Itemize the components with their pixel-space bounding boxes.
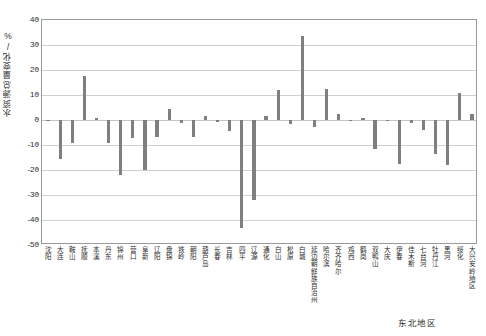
- bar: [470, 114, 473, 120]
- x-tick-label: 大兴安岭地区: [467, 246, 474, 289]
- x-tick-label: 锦州: [116, 246, 123, 260]
- x-tick-label: 辽源: [249, 246, 256, 260]
- bar: [143, 120, 146, 170]
- bar: [373, 120, 376, 149]
- y-tick-mark--10: [36, 144, 39, 145]
- x-tick-label: 盘锦: [164, 246, 171, 260]
- x-tick-label: 齐齐哈尔: [334, 246, 341, 275]
- bar: [192, 120, 195, 137]
- x-tick-label: 四平: [237, 246, 244, 260]
- y-tick-label-20: 20: [3, 65, 39, 74]
- x-tick-label: 通化: [261, 246, 268, 260]
- x-tick-label: 朝阳: [189, 246, 196, 260]
- water-resource-change-bar-chart: 水资源总量变化/% 403020100-10-20-30-40-50 沈阳大连鞍…: [0, 0, 486, 336]
- y-tick-label-0: 0: [3, 115, 39, 124]
- bar: [434, 120, 437, 154]
- bar: [398, 120, 401, 164]
- bar: [131, 120, 134, 138]
- y-tick-mark--30: [36, 194, 39, 195]
- x-tick-label: 牡丹江: [431, 246, 438, 268]
- bar: [410, 120, 413, 123]
- x-tick-label: 本溪: [92, 246, 99, 260]
- bar: [313, 120, 316, 127]
- x-tick-label: 鸡西: [346, 246, 353, 260]
- x-tick-label: 葫芦岛: [201, 246, 208, 268]
- bar: [289, 120, 292, 124]
- x-tick-label: 沈阳: [43, 246, 50, 260]
- bar: [349, 120, 352, 121]
- bar: [46, 120, 49, 121]
- y-tick-mark--50: [36, 244, 39, 245]
- x-tick-label: 鞍山: [68, 246, 75, 260]
- x-tick-label: 黑河: [443, 246, 450, 260]
- x-tick-label: 松原: [286, 246, 293, 260]
- bar: [204, 116, 207, 121]
- x-tick-label: 绥化: [455, 246, 462, 260]
- y-tick-label--20: -20: [3, 165, 39, 174]
- y-tick-label-40: 40: [3, 15, 39, 24]
- bar: [71, 120, 74, 143]
- y-tick-mark-30: [36, 44, 39, 45]
- x-tick-label: 阜新: [140, 246, 147, 260]
- bar: [301, 36, 304, 120]
- bar: [83, 76, 86, 121]
- x-tick-label: 长春: [213, 246, 220, 260]
- x-tick-label: 白山: [273, 246, 280, 260]
- bar: [119, 120, 122, 175]
- bar: [446, 120, 449, 165]
- bar: [386, 120, 389, 121]
- y-tick-mark-0: [36, 119, 39, 120]
- x-tick-label: 鹤岗: [358, 246, 365, 260]
- y-tick-mark--20: [36, 169, 39, 170]
- y-tick-label--30: -30: [3, 190, 39, 199]
- y-tick-mark-20: [36, 69, 39, 70]
- bar: [216, 120, 219, 122]
- bar: [228, 120, 231, 131]
- bar: [325, 89, 328, 120]
- x-tick-label: 吉林: [225, 246, 232, 260]
- bar: [277, 90, 280, 120]
- plot-area: [41, 19, 477, 244]
- y-tick-label-10: 10: [3, 90, 39, 99]
- x-tick-label: 大庆: [382, 246, 389, 260]
- bar: [107, 120, 110, 143]
- x-tick-label: 双鸭山: [370, 246, 377, 268]
- x-tick-label: 抚顺: [80, 246, 87, 260]
- x-axis-ticks: 沈阳大连鞍山抚顺本溪丹东锦州营口阜新辽阳盘锦铁岭朝阳葫芦岛长春吉林四平辽源通化白…: [41, 246, 477, 308]
- x-tick-label: 佳木斯: [407, 246, 414, 268]
- x-tick-label: 七台河: [419, 246, 426, 268]
- x-tick-label: 大连: [55, 246, 62, 260]
- bar: [155, 120, 158, 137]
- y-tick-label--10: -10: [3, 140, 39, 149]
- bar: [59, 120, 62, 159]
- x-tick-label: 伊春: [395, 246, 402, 260]
- bar: [168, 109, 171, 121]
- y-tick-mark-40: [36, 19, 39, 20]
- y-tick-mark--40: [36, 219, 39, 220]
- bar: [337, 114, 340, 120]
- x-tick-label: 铁岭: [177, 246, 184, 260]
- x-tick-label: 哈尔滨: [322, 246, 329, 268]
- bar: [252, 120, 255, 200]
- x-tick-label: 延边朝鲜族自治州: [310, 246, 317, 304]
- x-tick-label: 辽阳: [152, 246, 159, 260]
- bars-series: [42, 20, 476, 243]
- bar: [95, 118, 98, 120]
- bar: [422, 120, 425, 130]
- y-tick-label--40: -40: [3, 215, 39, 224]
- bar: [361, 118, 364, 121]
- x-axis-title: 东北地区: [398, 316, 436, 328]
- bar: [264, 116, 267, 120]
- x-tick-label: 白城: [298, 246, 305, 260]
- x-tick-label: 丹东: [104, 246, 111, 260]
- y-tick-label-30: 30: [3, 40, 39, 49]
- bar: [240, 120, 243, 228]
- bar: [458, 93, 461, 120]
- bar: [180, 120, 183, 123]
- x-tick-label: 营口: [128, 246, 135, 260]
- y-tick-mark-10: [36, 94, 39, 95]
- y-axis-title: 水资源总量变化/%: [0, 18, 16, 130]
- y-tick-label--50: -50: [3, 240, 39, 249]
